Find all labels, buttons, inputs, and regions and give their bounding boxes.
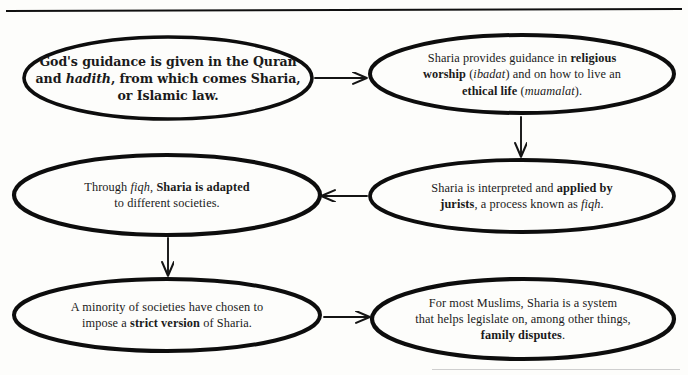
node-4-text: Through fiqh, Sharia is adaptedto differ… [14, 179, 320, 211]
strict-version-node: A minority of societies have chosen toim… [14, 279, 320, 351]
applied-by-jurists-node: Sharia is interpreted and applied byjuri… [370, 160, 674, 232]
family-disputes-node: For most Muslims, Sharia is a systemthat… [372, 279, 674, 359]
node-6-text: For most Muslims, Sharia is a systemthat… [372, 295, 674, 344]
node-5-text: A minority of societies have chosen toim… [14, 299, 320, 331]
node-2-text: Sharia provides guidance in religiouswor… [370, 50, 674, 99]
sharia-adapted-node: Through fiqh, Sharia is adaptedto differ… [14, 155, 320, 235]
religious-worship-node: Sharia provides guidance in religiouswor… [370, 35, 674, 114]
gods-guidance-node: God's guidance is given in the Quranand … [24, 37, 312, 119]
diagram-page: God's guidance is given in the Quranand … [0, 0, 688, 375]
node-1-text: God's guidance is given in the Quranand … [24, 53, 312, 104]
node-3-text: Sharia is interpreted and applied byjuri… [370, 180, 674, 212]
